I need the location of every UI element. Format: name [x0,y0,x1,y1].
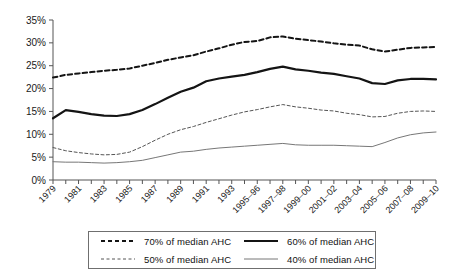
chart-container: 0%5%10%15%20%25%30%35%197919811983198519… [0,0,464,277]
svg-text:30%: 30% [26,37,46,48]
chart-axes [53,20,436,180]
legend-line-solid-bold-icon [244,237,278,245]
svg-text:25%: 25% [26,60,46,71]
x-axis-label: 1989 [164,183,185,204]
x-axis-label: 1987 [139,183,160,204]
x-axis-label: 1981 [62,183,83,204]
x-axis-label: 1991 [190,183,211,204]
legend-line-solid-thin-icon [244,255,278,263]
series-line-0 [53,36,436,77]
series-line-3 [53,132,436,163]
svg-text:35%: 35% [26,15,46,26]
legend-item-40: 40% of median AHC [232,254,375,265]
legend-label-50: 50% of median AHC [144,254,231,265]
legend-label-60: 60% of median AHC [287,236,374,247]
svg-text:20%: 20% [26,83,46,94]
x-axis-ticks: 197919811983198519871989199119931995–961… [37,180,441,215]
chart-legend: 70% of median AHC 60% of median AHC 50% … [88,231,376,269]
x-axis-label: 2009–10 [409,183,441,215]
legend-label-40: 40% of median AHC [287,254,374,265]
x-axis-label: 1983 [88,183,109,204]
legend-label-70: 70% of median AHC [144,236,231,247]
svg-text:10%: 10% [26,129,46,140]
y-axis-ticks: 0%5%10%15%20%25%30%35% [26,15,53,186]
x-axis-label: 1979 [37,183,58,204]
legend-item-60: 60% of median AHC [232,236,375,247]
series-line-1 [53,67,436,119]
x-axis-label: 1993 [215,183,236,204]
svg-text:0%: 0% [32,175,47,186]
legend-item-70: 70% of median AHC [89,236,232,247]
x-axis-label: 1985 [113,183,134,204]
svg-text:5%: 5% [32,152,47,163]
svg-text:15%: 15% [26,106,46,117]
legend-line-dashed-bold-icon [101,237,135,245]
series-line-2 [53,105,436,155]
legend-item-50: 50% of median AHC [89,254,232,265]
legend-line-dashed-thin-icon [101,255,135,263]
legend-grid: 70% of median AHC 60% of median AHC 50% … [89,232,375,268]
